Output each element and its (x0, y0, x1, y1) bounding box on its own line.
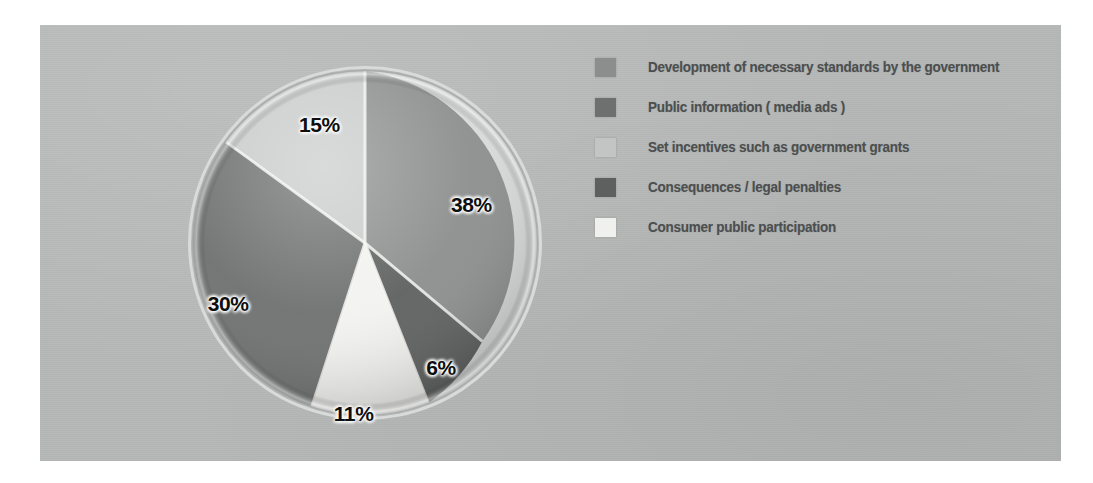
pie-label-15: 15% (299, 113, 340, 137)
legend-item-public-information-media-ads: Public information ( media ads ) (595, 87, 1055, 127)
legend-item-label: Development of necessary standards by th… (648, 59, 999, 75)
chart-panel: 38% 6% 11% 30% 15% Development of necess… (40, 25, 1061, 461)
chart-image: 38% 6% 11% 30% 15% Development of necess… (0, 0, 1093, 483)
legend-item-label: Consumer public participation (648, 219, 836, 235)
legend-swatch-icon (595, 178, 616, 197)
legend-swatch-icon (595, 138, 616, 157)
legend-item-label: Set incentives such as government grants (648, 139, 909, 155)
pie-svg (175, 53, 555, 433)
legend-swatch-icon (595, 58, 616, 77)
pie-label-30: 30% (208, 292, 249, 316)
legend: Development of necessary standards by th… (595, 47, 1055, 247)
legend-item-set-incentives-government-grants: Set incentives such as government grants (595, 127, 1055, 167)
legend-swatch-icon (595, 218, 616, 237)
pie-chart: 38% 6% 11% 30% 15% (175, 53, 555, 433)
pie-label-38: 38% (451, 193, 492, 217)
pie-label-11: 11% (334, 402, 374, 426)
legend-item-label: Consequences / legal penalties (648, 179, 841, 195)
legend-item-label: Public information ( media ads ) (648, 99, 845, 115)
pie-label-6: 6% (426, 356, 456, 380)
legend-item-consumer-public-participation: Consumer public participation (595, 207, 1055, 247)
legend-swatch-icon (595, 98, 616, 117)
legend-item-consequences-legal-penalties: Consequences / legal penalties (595, 167, 1055, 207)
legend-item-development-of-necessary-standards: Development of necessary standards by th… (595, 47, 1055, 87)
